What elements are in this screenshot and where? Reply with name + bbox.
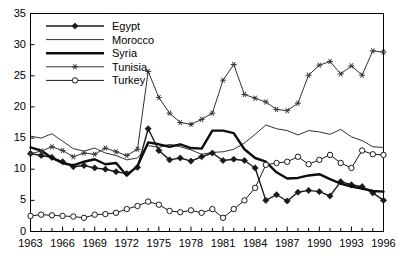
series-line [31, 131, 384, 192]
marker-circle [317, 157, 322, 162]
marker-circle [349, 165, 354, 170]
legend-label: Tunisia [112, 61, 148, 73]
marker-diamond [102, 166, 108, 172]
marker-circle [295, 154, 300, 159]
marker-circle [124, 206, 129, 211]
marker-circle [135, 203, 140, 208]
y-tick-label: 5 [0, 193, 26, 205]
marker-circle [38, 212, 43, 217]
legend: EgyptMoroccoSyriaTunisiaTurkey [46, 20, 154, 86]
series-line [31, 151, 384, 218]
marker-circle [231, 206, 236, 211]
marker-diamond [72, 23, 78, 29]
marker-circle [178, 209, 183, 214]
marker-circle [167, 208, 172, 213]
marker-circle [103, 211, 108, 216]
marker-circle [306, 162, 311, 167]
y-tick-label: 25 [0, 69, 26, 81]
marker-circle [370, 152, 375, 157]
marker-diamond [273, 192, 279, 198]
series-syria [31, 131, 384, 192]
marker-circle [274, 160, 279, 165]
y-tick-label: 35 [0, 7, 26, 19]
legend-label: Turkey [112, 74, 146, 86]
y-tick-label: 15 [0, 131, 26, 143]
legend-label: Syria [112, 47, 138, 59]
marker-circle [381, 152, 386, 157]
y-tick-label: 20 [0, 100, 26, 112]
y-tick-label: 0 [0, 225, 26, 237]
marker-diamond [306, 187, 312, 193]
marker-circle [81, 215, 86, 220]
legend-label: Egypt [112, 20, 140, 32]
marker-circle [359, 148, 364, 153]
series-tunisia [28, 48, 387, 159]
marker-circle [242, 198, 247, 203]
marker-circle [199, 210, 204, 215]
marker-circle [92, 212, 97, 217]
y-tick-label: 30 [0, 38, 26, 50]
marker-circle [72, 78, 77, 83]
marker-circle [252, 185, 257, 190]
marker-diamond [231, 156, 237, 162]
marker-circle [71, 214, 76, 219]
marker-circle [285, 159, 290, 164]
marker-circle [156, 202, 161, 207]
marker-diamond [188, 158, 194, 164]
marker-diamond [177, 155, 183, 161]
marker-circle [145, 199, 150, 204]
marker-diamond [113, 169, 119, 175]
marker-circle [113, 210, 118, 215]
series-turkey [28, 148, 386, 221]
marker-circle [60, 213, 65, 218]
marker-circle [49, 213, 54, 218]
marker-circle [220, 215, 225, 220]
marker-diamond [92, 165, 98, 171]
marker-circle [188, 208, 193, 213]
marker-circle [263, 162, 268, 167]
legend-label: Morocco [112, 34, 154, 46]
marker-diamond [263, 197, 269, 203]
marker-circle [28, 213, 33, 218]
marker-diamond [145, 126, 151, 132]
marker-circle [327, 152, 332, 157]
line-chart: EgyptMoroccoSyriaTunisiaTurkey 051015202… [0, 0, 400, 262]
plot-area: EgyptMoroccoSyriaTunisiaTurkey [0, 0, 400, 262]
y-tick-label: 10 [0, 162, 26, 174]
marker-circle [338, 160, 343, 165]
marker-diamond [316, 189, 322, 195]
x-tick-label: 1996 [364, 237, 400, 249]
marker-circle [210, 206, 215, 211]
